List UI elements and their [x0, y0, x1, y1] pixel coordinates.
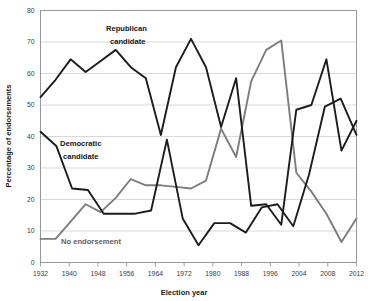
- x-tick-label: 2012: [349, 270, 364, 277]
- x-tick-label: 1980: [205, 270, 220, 277]
- x-tick-label: 1972: [177, 270, 192, 277]
- y-axis-title: Percentage of endorsements: [4, 85, 13, 188]
- y-tick-label: 0: [31, 259, 35, 266]
- x-tick-label: 2004: [291, 270, 306, 277]
- democratic-label-line1: Democratic: [60, 139, 101, 148]
- series-line-republican: [41, 39, 357, 225]
- x-tick-label: 1940: [62, 270, 77, 277]
- x-tick-label: 1988: [234, 270, 249, 277]
- endorsements-line-chart: 01020304050607080 1932194019481956196419…: [0, 0, 368, 301]
- x-axis-ticks: 1932194019481956196419721980198819962004…: [33, 263, 364, 277]
- x-tick-label: 1932: [33, 270, 48, 277]
- x-tick-label: 2008: [320, 270, 335, 277]
- y-tick-label: 60: [27, 70, 35, 77]
- x-tick-label: 1956: [119, 270, 134, 277]
- x-axis-title: Election year: [161, 288, 208, 297]
- x-tick-label: 1948: [90, 270, 105, 277]
- republican-label-line1: Republican: [106, 24, 147, 33]
- y-tick-label: 40: [27, 133, 35, 140]
- chart-container: 01020304050607080 1932194019481956196419…: [0, 0, 368, 301]
- democratic-label-line2: candidate: [63, 152, 98, 161]
- no-endorsement-label: No endorsement: [61, 237, 121, 246]
- x-tick-label: 1996: [263, 270, 278, 277]
- republican-label-line2: candidate: [110, 37, 145, 46]
- y-tick-label: 20: [27, 196, 35, 203]
- y-tick-label: 30: [27, 164, 35, 171]
- y-axis-tick-labels: 01020304050607080: [27, 7, 35, 266]
- y-tick-label: 50: [27, 101, 35, 108]
- y-tick-label: 10: [27, 227, 35, 234]
- y-tick-label: 70: [27, 38, 35, 45]
- y-tick-label: 80: [27, 7, 35, 14]
- series-line-democratic: [41, 99, 357, 245]
- x-tick-label: 1964: [148, 270, 163, 277]
